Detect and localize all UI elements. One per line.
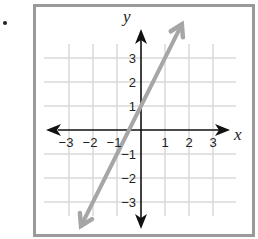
y-tick-label: 3 (129, 51, 136, 66)
y-tick-label: −3 (121, 195, 136, 210)
x-tick-label: −1 (107, 135, 122, 150)
y-tick-label: 1 (129, 99, 136, 114)
x-tick-label: 1 (161, 135, 168, 150)
x-tick-label: 3 (209, 135, 216, 150)
coordinate-plane-chart: −3−2−1123−3−2−1123 x y (0, 0, 258, 239)
x-tick-label: −2 (83, 135, 98, 150)
x-tick-label: −3 (59, 135, 74, 150)
y-tick-label: −1 (121, 147, 136, 162)
x-tick-label: 2 (185, 135, 192, 150)
y-tick-label: −2 (121, 171, 136, 186)
x-axis-label: x (233, 125, 242, 144)
y-axis-label: y (121, 7, 131, 26)
y-tick-label: 2 (129, 75, 136, 90)
